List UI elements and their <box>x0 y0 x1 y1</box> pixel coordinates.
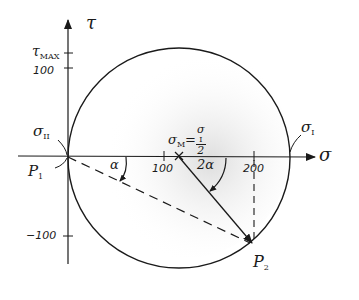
sigma-i-leader <box>290 135 301 152</box>
sigma-i-label: σI <box>301 120 314 137</box>
sigma-ii-leader <box>58 140 67 155</box>
sigma-axis-label: σ <box>319 146 331 164</box>
tau-minus100-label: −100 <box>26 230 56 241</box>
sigma-200-label: 200 <box>243 163 264 174</box>
sigma-100-label: 100 <box>152 163 173 174</box>
tau-max-label: τMAX <box>32 44 59 61</box>
tau-axis-label: τ <box>86 14 96 32</box>
p2-label: P2 <box>253 254 269 272</box>
two-alpha-label: 2α <box>197 158 214 171</box>
tau-100-label: 100 <box>33 65 54 76</box>
p1-leader <box>55 158 67 168</box>
p1-label: P1 <box>28 164 43 181</box>
center-formula: σM=σI2 <box>168 124 206 156</box>
sigma-ii-label: σII <box>33 124 50 141</box>
alpha-label: α <box>110 158 119 171</box>
